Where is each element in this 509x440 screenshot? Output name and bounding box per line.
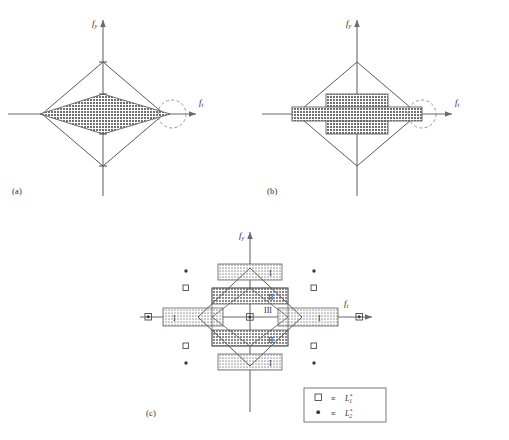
legend-item-2-relation: ≡ xyxy=(331,409,336,418)
panel-c-region-I-top xyxy=(218,264,282,280)
panel-b-x-axis-label: ft xyxy=(455,97,460,108)
panel-label-c: (c) xyxy=(146,408,156,418)
panel-c-region-II-bottom xyxy=(212,330,288,346)
panel-label-a: (a) xyxy=(12,186,22,196)
panel-c-region-II-top xyxy=(212,288,288,304)
legend-item-1-relation: ≡ xyxy=(331,394,336,403)
panel-c-label-I-bottom: I xyxy=(269,359,272,368)
panel-c-label-I-left: I xyxy=(173,314,176,323)
panel-c-label-I-right: I xyxy=(318,314,321,323)
panel-b-y-axis-label: fy xyxy=(346,18,352,29)
filled-dot-icon xyxy=(316,410,320,414)
panel-c-region-I-right xyxy=(278,308,338,326)
panel-b-shaded-arm xyxy=(292,107,422,121)
panel-c-y-axis-label: fy xyxy=(239,230,245,241)
panel-c-label-II-bottom: II xyxy=(268,336,274,345)
legend: ≡ L*1 ≡ L*2 xyxy=(304,388,386,422)
panel-a-shaded-region xyxy=(40,94,170,134)
panel-label-b: (b) xyxy=(267,186,278,196)
legend-item-2-symbol: L*2 xyxy=(344,408,352,420)
figure-svg: ft fy ft fy xyxy=(0,0,509,440)
legend-item-1-symbol: L*1 xyxy=(344,393,352,405)
panel-c-label-I-top: I xyxy=(269,269,272,278)
panel-c-x-axis-label: ft xyxy=(344,298,349,309)
panel-a-x-axis-label: ft xyxy=(199,97,204,108)
panel-c-label-II-top: II xyxy=(268,293,274,302)
panel-c-label-III-core: III xyxy=(264,306,272,315)
panel-c: I I I I II II III ft fy xyxy=(140,230,372,412)
panel-b: ft fy xyxy=(262,18,460,196)
panel-c-region-I-left xyxy=(163,308,223,326)
figure-root: ft fy ft fy xyxy=(0,0,509,440)
panel-c-region-I-bottom xyxy=(218,354,282,370)
panel-a: ft fy xyxy=(8,18,204,196)
panel-a-y-axis-label: fy xyxy=(92,18,98,29)
